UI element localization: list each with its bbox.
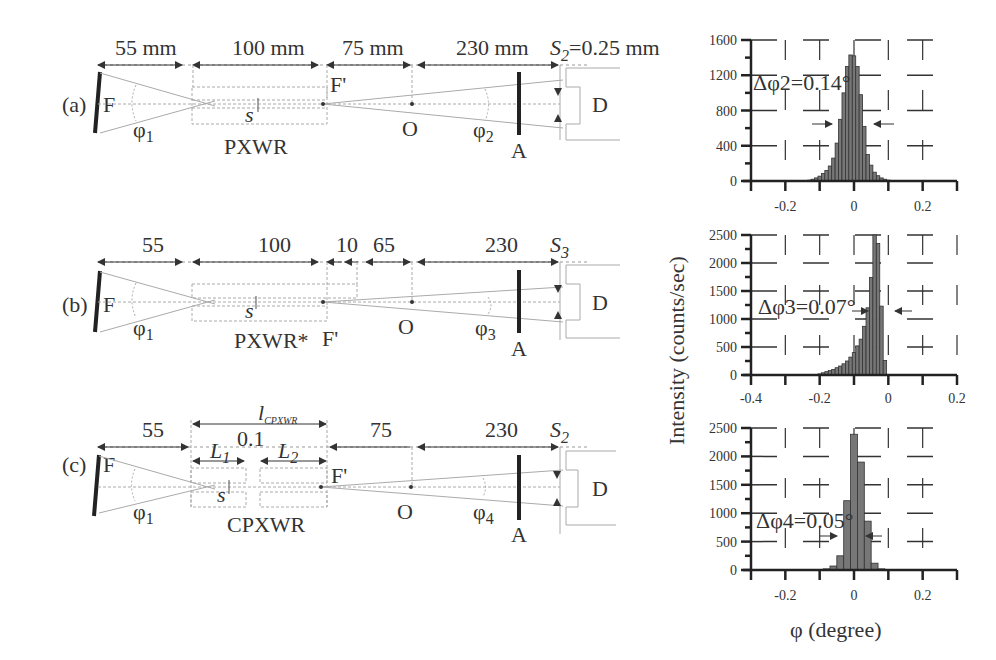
panel-label-b: (b) [62,292,88,317]
histogram-phi3: 05001000150020002500-0.4-0.200.2Δφ3=0.07… [709,228,966,406]
slit-label-b: S3 [550,232,569,261]
crystal-label-b: PXWR* [234,328,309,353]
y-tick-label: 2500 [709,228,737,243]
y-tick-label: 1000 [709,506,737,521]
histogram-bar [845,361,848,375]
histogram-bar [837,556,844,570]
histogram-bar [869,278,872,375]
dim-55-c: 55 [142,417,164,442]
y-tick-label: 1500 [709,478,737,493]
analyzer-label-b: A [511,336,527,361]
histogram-bar [857,462,864,570]
center-label-b: O [398,314,414,339]
analyzer-label-a: A [511,138,527,163]
dim-230-b: 230 [485,232,518,257]
source-label-c: F [103,452,115,477]
y-tick-label: 800 [716,104,737,119]
y-tick-label: 0 [730,563,737,578]
dim-75-c: 75 [370,417,392,442]
histogram-bar [825,170,828,181]
dim-230-c: 230 [485,417,518,442]
source-label-b: F [103,292,115,317]
fwhm-annotation: Δφ4=0.05° [756,508,854,533]
histogram-bar [859,339,862,375]
histogram-bar [852,56,855,181]
panel-c: (c) F 55 lCPXWR 0.1 L1 L2 75 230 S2 [62,400,616,547]
detector-label-a: D [592,92,608,117]
histogram-bar [856,346,859,375]
spacing-label-a: s [245,102,254,127]
total-length-label-c: lCPXWR [258,400,297,426]
histogram-bar [856,66,859,181]
figure-canvas: (a) F 55 mm 100 mm 75 mm 230 mm S2=0.25 … [0,0,996,660]
histogram-bar [876,243,879,375]
spacing-label-b: s [245,298,254,323]
histogram-bar [849,357,852,375]
histogram-bar [866,155,869,181]
histogram-bar [883,360,886,375]
histogram-bar [851,434,858,570]
panel-label-a: (a) [62,92,86,117]
detector-label-c: D [592,476,608,501]
spacing-label-c: s [217,482,226,507]
focus-label-a: F' [330,72,346,97]
histogram-bar [873,235,876,375]
angle-in-a: φ1 [133,117,154,145]
histogram-bar [842,93,845,181]
x-tick-label: 0 [885,391,892,406]
y-tick-label: 0 [730,368,737,383]
y-tick-label: 2000 [709,256,737,271]
histogram-bar [873,172,876,181]
crystal-label-c: CPXWR [227,512,306,537]
y-tick-label: 500 [716,340,737,355]
x-tick-label: -0.2 [774,199,796,214]
y-tick-label: 2000 [709,449,737,464]
histogram-bar [869,165,872,181]
x-tick-label: 0 [851,199,858,214]
focus-label-b: F' [322,326,338,351]
fwhm-annotation: Δφ2=0.14° [753,70,851,95]
y-tick-label: 0 [730,174,737,189]
dim-55mm-a: 55 mm [115,35,177,60]
panel-label-c: (c) [62,452,86,477]
analyzer-label-c: A [511,522,527,547]
source-bar-a [95,72,100,133]
y-tick-label: 2500 [709,421,737,436]
histogram-bar [832,158,835,181]
x-tick-label: 0.2 [914,199,932,214]
histogram-bar [839,119,842,181]
angle-in-c: φ1 [133,499,154,527]
histogram-bar [863,126,866,181]
crystal-label-a: PXWR [224,134,288,159]
seg2-label-c: L2 [277,438,298,466]
histogram-phi4: 05001000150020002500-0.200.2Δφ4=0.05° [709,421,957,603]
dim-100-b: 100 [258,232,291,257]
angle-in-b: φ1 [133,315,154,343]
y-tick-label: 500 [716,535,737,550]
angle-out-b: φ3 [475,315,496,343]
dim-65-b: 65 [373,232,395,257]
dim-gap-c: 0.1 [237,426,265,451]
center-label-a: O [402,116,418,141]
histogram-bar [828,166,831,181]
slit-label-c: S2 [550,417,569,446]
center-label-c: O [397,499,413,524]
slit-label-a: S2=0.25 mm [550,35,660,64]
histogram-bar [864,521,871,570]
y-tick-label: 1500 [709,284,737,299]
histogram-bar [866,308,869,375]
focus-label-c: F' [331,463,347,488]
x-axis-label: φ (degree) [790,617,881,642]
dim-75mm-a: 75 mm [342,35,404,60]
histogram-phi2: 040080012001600-0.200.2Δφ2=0.14° [709,33,957,214]
panel-a: (a) F 55 mm 100 mm 75 mm 230 mm S2=0.25 … [62,35,660,163]
x-tick-label: -0.4 [740,391,762,406]
y-tick-label: 1000 [709,312,737,327]
angle-out-c: φ4 [473,499,494,527]
x-tick-label: -0.2 [809,391,831,406]
histogram-bar [839,366,842,375]
y-axis-label: Intensity (counts/sec) [664,256,689,445]
x-tick-label: 0 [851,588,858,603]
source-bar-c [94,455,99,516]
y-tick-label: 1600 [709,33,737,48]
